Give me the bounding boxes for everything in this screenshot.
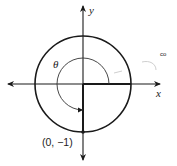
unit-circle-diagram: co y x θ (0, −1) [0,0,177,166]
point-label: (0, −1) [42,136,73,148]
y-axis-label: y [88,4,94,16]
x-axis-label: x [155,87,161,99]
point-marker [81,130,85,134]
angle-label: θ [53,58,59,70]
faint-marks [114,61,156,73]
faint-text: co [160,51,167,57]
